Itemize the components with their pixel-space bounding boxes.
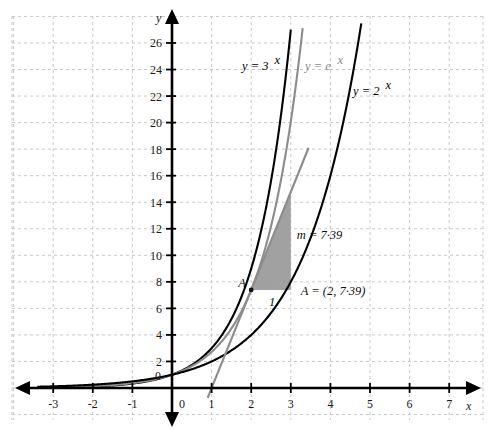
x-axis-right-arrowhead	[466, 381, 481, 395]
curve-label-2x: y = 2 x	[351, 78, 392, 98]
curve-y-equals-2-to-the-x	[37, 23, 361, 386]
x-tick-label: 3	[288, 397, 294, 411]
point-A-dot	[249, 288, 254, 293]
svg-text:x: x	[385, 78, 392, 92]
y-tick-label: 22	[150, 90, 162, 104]
x-tick-label: 1	[209, 397, 215, 411]
origin-label: 0	[179, 397, 185, 411]
svg-text:x: x	[274, 53, 281, 67]
curve-label-3x: y = 3 x	[240, 53, 281, 73]
run-label: 1	[269, 295, 275, 309]
exponential-functions-chart: -3-2-11234567 2468101214161820222426 x y…	[0, 0, 495, 431]
x-tick-label: 5	[367, 397, 373, 411]
y-tick-label: 20	[150, 116, 162, 130]
x-tick-label: 2	[248, 397, 254, 411]
y-axis-tick-labels: 2468101214161820222426	[150, 36, 162, 368]
y-axis-zero-label: 0	[155, 369, 161, 383]
y-tick-label: 26	[150, 36, 162, 50]
x-tick-label: -3	[48, 397, 58, 411]
svg-text:x: x	[337, 53, 344, 67]
svg-text:y = e: y = e	[303, 59, 331, 73]
tangent-line-at-A	[208, 148, 309, 398]
y-tick-label: 10	[150, 249, 162, 263]
svg-text:y = 2: y = 2	[351, 84, 379, 98]
y-tick-label: 4	[156, 328, 162, 342]
x-tick-label: -2	[88, 397, 98, 411]
x-tick-label: -1	[127, 397, 137, 411]
gradient-value-label: m = 7·39	[297, 228, 343, 242]
x-tick-label: 4	[327, 397, 333, 411]
y-tick-label: 2	[156, 355, 162, 369]
point-A-coordinates: A = (2, 7·39)	[300, 284, 366, 298]
y-tick-label: 24	[150, 63, 162, 77]
vertical-gridlines	[12, 16, 483, 420]
y-tick-label: 8	[156, 275, 162, 289]
point-A-marker: A	[237, 276, 246, 290]
y-axis-label: y	[155, 11, 162, 25]
x-axis-label: x	[465, 399, 472, 413]
y-tick-label: 14	[150, 196, 162, 210]
y-tick-label: 6	[156, 302, 162, 316]
horizontal-gridlines	[12, 16, 483, 414]
y-tick-label: 16	[150, 169, 162, 183]
x-tick-label: 6	[407, 397, 413, 411]
chart-canvas: -3-2-11234567 2468101214161820222426 x y…	[0, 0, 495, 431]
y-tick-label: 18	[150, 143, 162, 157]
y-axis-bottom-arrowhead	[165, 412, 179, 427]
curve-y-equals-e-to-the-x	[37, 28, 302, 387]
y-tick-label: 12	[150, 222, 162, 236]
x-axis-left-arrowhead	[15, 381, 30, 395]
x-axis-tick-labels: -3-2-11234567	[48, 397, 452, 411]
x-tick-label: 7	[446, 397, 452, 411]
svg-text:y = 3: y = 3	[240, 59, 268, 73]
